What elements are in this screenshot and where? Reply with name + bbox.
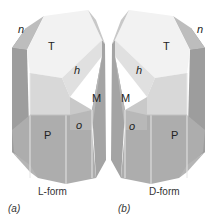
d-form-caption: D-form <box>149 186 180 197</box>
panel-label-b: (b) <box>118 203 130 214</box>
d-label-m: M <box>121 92 130 104</box>
l-form-caption-suffix: -form <box>44 186 67 197</box>
l-form-caption: L-form <box>38 186 67 197</box>
l-form-crystal-drawing: n T h M P o n T h M P o <box>0 0 217 221</box>
panel-label-a: (a) <box>8 203 20 214</box>
d-label-n: n <box>197 23 203 35</box>
crystal-enantiomorph-figure: n T h M P o n T h M P o L-form D-form (a… <box>0 0 217 221</box>
d-form-caption-suffix: -form <box>156 186 179 197</box>
d-label-t: T <box>163 40 170 52</box>
d-label-o: o <box>129 120 135 132</box>
l-label-n: n <box>18 23 24 35</box>
d-label-p: P <box>171 129 178 141</box>
d-label-h: h <box>136 64 142 76</box>
l-label-h: h <box>74 64 80 76</box>
l-label-o: o <box>76 119 82 131</box>
l-label-p: P <box>44 129 51 141</box>
l-label-m: M <box>92 92 101 104</box>
l-label-t: T <box>48 40 55 52</box>
